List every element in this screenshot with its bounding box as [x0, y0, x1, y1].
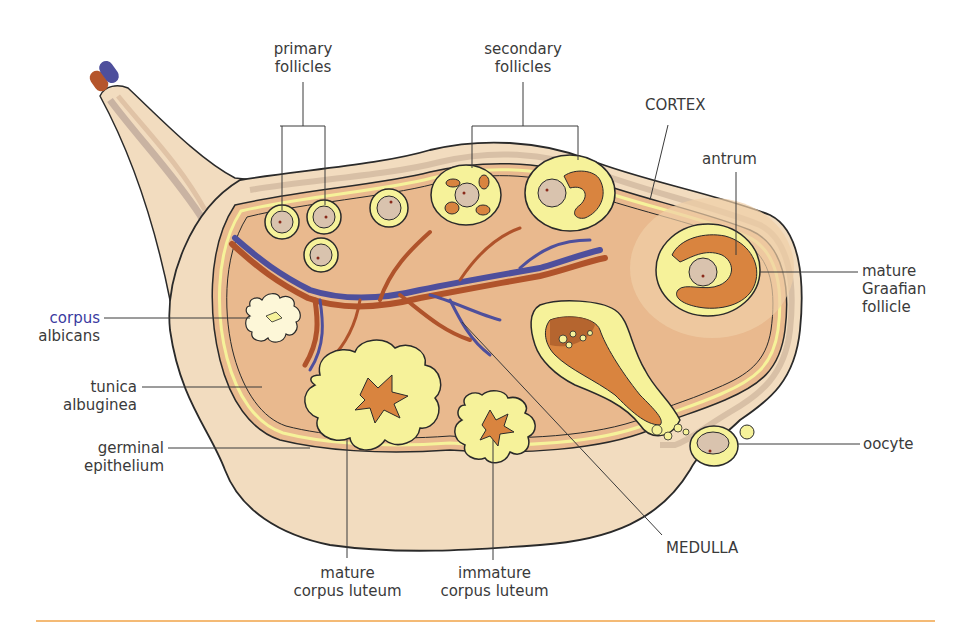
label-antrum: antrum: [702, 150, 757, 168]
label-germinal-epithelium: germinal epithelium: [50, 439, 164, 475]
label-line: follicle: [862, 298, 926, 316]
label-line: epithelium: [50, 457, 164, 475]
primary-follicle: [307, 200, 341, 234]
ovary-diagram: [0, 0, 962, 634]
label-line: CORTEX: [645, 96, 706, 114]
primary-follicle: [370, 189, 408, 227]
label-line: germinal: [50, 439, 164, 457]
graafian-follicle: [656, 224, 760, 316]
label-line: tunica: [40, 378, 137, 396]
label-mature-corpus-luteum: mature corpus luteum: [290, 564, 405, 600]
primary-follicle: [265, 205, 299, 239]
label-cortex: CORTEX: [645, 96, 706, 114]
label-tunica-albuginea: tunica albuginea: [40, 378, 137, 414]
label-line: follicles: [268, 58, 338, 76]
label-immature-corpus-luteum: immature corpus luteum: [437, 564, 552, 600]
corpus-albicans: [246, 294, 301, 342]
label-line: immature: [437, 564, 552, 582]
label-secondary-follicles: secondary follicles: [478, 40, 568, 76]
label-line: mature: [862, 262, 926, 280]
label-line: antrum: [702, 150, 757, 168]
label-corpus-albicans: corpus albicans: [20, 309, 100, 345]
label-line: corpus luteum: [290, 582, 405, 600]
secondary-follicle-late: [525, 155, 615, 231]
label-line: primary: [268, 40, 338, 58]
label-line: mature: [290, 564, 405, 582]
primary-follicle: [304, 238, 338, 272]
label-line: albicans: [20, 327, 100, 345]
immature-corpus-luteum: [455, 391, 535, 463]
label-line: albuginea: [40, 396, 137, 414]
label-line: follicles: [478, 58, 568, 76]
label-mature-graafian-follicle: mature Graafian follicle: [862, 262, 926, 316]
label-line: corpus luteum: [437, 582, 552, 600]
released-oocyte: [690, 425, 754, 466]
label-line: secondary: [478, 40, 568, 58]
secondary-follicle-early: [431, 165, 501, 225]
label-oocyte: oocyte: [863, 435, 914, 453]
label-line: MEDULLA: [666, 539, 738, 557]
label-line: Graafian: [862, 280, 926, 298]
label-line: corpus: [20, 309, 100, 327]
label-medulla: MEDULLA: [666, 539, 738, 557]
label-primary-follicles: primary follicles: [268, 40, 338, 76]
label-line: oocyte: [863, 435, 914, 453]
